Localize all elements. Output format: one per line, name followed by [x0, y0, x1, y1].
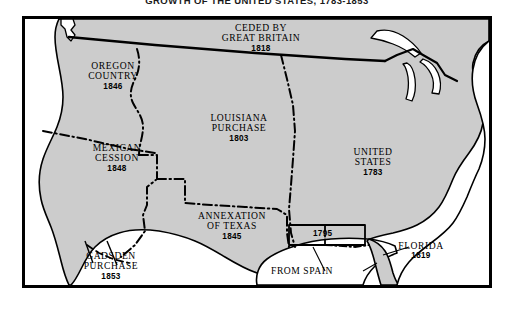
- map-drawing: [25, 19, 489, 285]
- annotation-gulf-strip-year: 1795: [313, 229, 332, 238]
- map-frame: OREGON COUNTRY 1846 CEDED BY GREAT BRITA…: [22, 16, 492, 288]
- landmass-main: [25, 19, 489, 285]
- map-title: GROWTH OF THE UNITED STATES, 1783-1853: [0, 0, 514, 6]
- map-figure: GROWTH OF THE UNITED STATES, 1783-1853: [0, 0, 514, 333]
- gadsden-leader-right: [107, 241, 117, 265]
- annotation-from-spain: FROM SPAIN: [271, 265, 333, 276]
